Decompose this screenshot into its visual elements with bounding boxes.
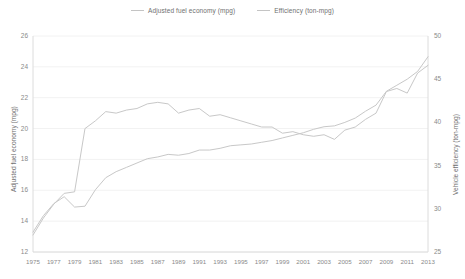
axis-lines (33, 36, 428, 252)
y-axis-left-title: Adjusted fuel economy (mpg) (10, 106, 17, 192)
y-axis-right-tick: 25 (434, 248, 456, 255)
y-axis-left-tick: 12 (6, 248, 28, 255)
y-axis-left-tick: 24 (6, 63, 28, 70)
gridlines (33, 36, 428, 252)
y-axis-left-tick: 14 (6, 217, 28, 224)
chart-container: Adjusted fuel economy (mpg) Efficiency (… (0, 0, 465, 279)
y-axis-left-tick: 26 (6, 32, 28, 39)
line-series-efficiency (33, 57, 428, 232)
y-axis-left-tick: 22 (6, 94, 28, 101)
y-axis-right-tick: 50 (434, 32, 456, 39)
line-series-fuel-economy (33, 65, 428, 235)
y-axis-right-title: Vehicle efficiency (ton-mpg) (452, 114, 459, 195)
plot-svg (0, 0, 465, 279)
y-axis-right-tick: 45 (434, 75, 456, 82)
x-axis-tick: 2013 (415, 258, 441, 265)
plot-area: 1214161820222426 253035404550 1975197719… (0, 0, 465, 279)
y-axis-right-tick: 30 (434, 205, 456, 212)
